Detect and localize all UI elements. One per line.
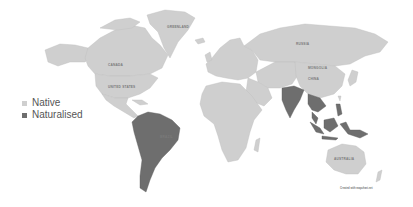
label-usa: UNITED STATES <box>108 85 135 89</box>
region-java <box>322 136 338 140</box>
map-legend: Native Naturalised <box>22 97 83 121</box>
region-russia <box>244 24 388 66</box>
label-australia: AUSTRALIA <box>334 157 355 161</box>
region-madagascar <box>254 138 260 152</box>
region-sumatra <box>310 122 324 134</box>
region-japan <box>348 70 358 86</box>
legend-label-naturalised: Naturalised <box>32 109 83 121</box>
region-uk <box>205 52 212 62</box>
label-greenland: GREENLAND <box>167 25 189 29</box>
region-canada <box>85 25 168 76</box>
region-india <box>282 86 304 118</box>
label-china: CHINA <box>308 77 320 81</box>
label-mongolia: MONGOLIA <box>308 66 328 70</box>
label-brazil: BRAZIL <box>160 135 173 139</box>
region-philippines <box>336 104 342 116</box>
label-canada: CANADA <box>108 63 124 67</box>
region-alaska <box>45 44 92 66</box>
region-taiwan <box>338 96 341 101</box>
legend-item-native: Native <box>22 97 83 109</box>
region-new-zealand <box>376 170 382 182</box>
region-south-america <box>132 112 180 192</box>
legend-item-naturalised: Naturalised <box>22 109 83 121</box>
region-malay-peninsula <box>312 112 318 124</box>
legend-label-native: Native <box>32 97 60 109</box>
region-central-asia <box>256 62 300 88</box>
legend-swatch-native <box>22 101 27 106</box>
legend-swatch-naturalised <box>22 113 27 118</box>
region-borneo <box>324 118 338 132</box>
label-russia: RUSSIA <box>296 42 310 46</box>
region-caribbean <box>132 100 148 105</box>
region-sulawesi-papua <box>340 122 368 138</box>
region-iceland <box>195 38 205 44</box>
map-credit: Created with mapchart.net <box>340 187 373 190</box>
